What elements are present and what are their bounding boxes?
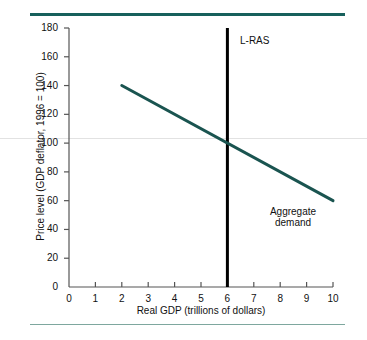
y-axis-tick-label: 180	[28, 23, 58, 33]
y-axis-tick-label: 80	[28, 167, 58, 177]
aggregate-demand-annotation-label: Aggregate demand	[256, 206, 330, 228]
y-axis-tick-label: 20	[28, 253, 58, 263]
x-axis-tick-label: 8	[270, 294, 290, 304]
x-axis-tick-label: 3	[138, 294, 158, 304]
x-axis-tick-label: 6	[217, 294, 237, 304]
x-axis-tick-label: 0	[59, 294, 79, 304]
x-axis-tick-label: 5	[191, 294, 211, 304]
y-axis-tick-label: 160	[28, 52, 58, 62]
aggregate-demand-label-line2: demand	[256, 217, 330, 228]
x-axis-tick-label: 10	[323, 294, 343, 304]
y-axis-tick-label: 40	[28, 224, 58, 234]
x-axis-tick-label: 7	[244, 294, 264, 304]
y-axis-tick-label: 140	[28, 81, 58, 91]
x-axis-tick-label: 9	[297, 294, 317, 304]
y-axis-ticks	[64, 28, 69, 258]
aggregate-demand-label-line1: Aggregate	[256, 206, 330, 217]
y-axis-tick-label: 100	[28, 138, 58, 148]
y-axis-tick-label: 0	[28, 282, 58, 292]
x-axis-label: Real GDP (trillions of dollars)	[69, 305, 333, 316]
lras-annotation-label: L-RAS	[240, 35, 269, 46]
y-axis-label: Price level (GDP deflator, 1996 = 100)	[35, 32, 46, 282]
figure-container: Price level (GDP deflator, 1996 = 100) R…	[0, 0, 367, 340]
x-axis-tick-label: 2	[112, 294, 132, 304]
y-axis-tick-label: 60	[28, 196, 58, 206]
x-axis-ticks	[95, 282, 333, 287]
y-axis-tick-label: 120	[28, 109, 58, 119]
x-axis-tick-label: 1	[85, 294, 105, 304]
x-axis-tick-label: 4	[165, 294, 185, 304]
